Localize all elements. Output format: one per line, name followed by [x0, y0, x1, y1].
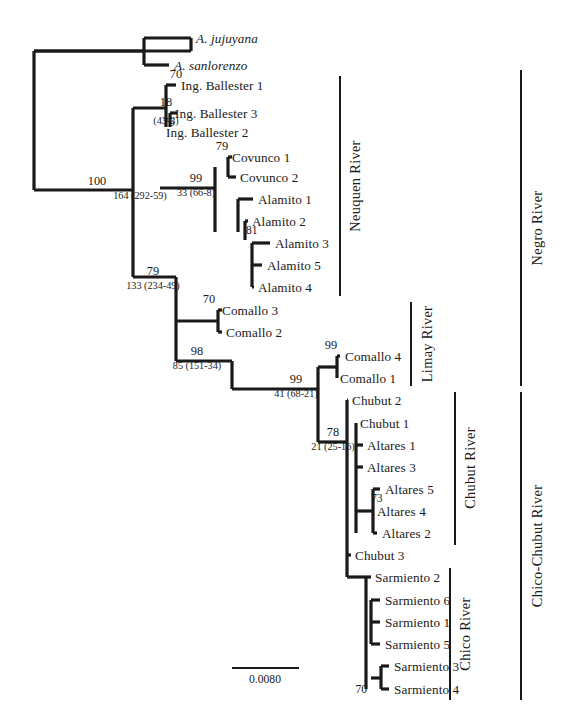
node-support-value: 78 [327, 426, 339, 438]
node-support-value: 70 [170, 68, 182, 80]
taxon-label: A. jujuyana [196, 32, 258, 45]
taxon-label: Comallo 1 [340, 372, 396, 385]
taxon-label: Sarmiento 4 [394, 683, 459, 696]
node-support-value: 79 [216, 140, 228, 152]
branch-divergence-stat: (43-3) [153, 116, 178, 126]
taxon-label: Alamito 3 [275, 237, 329, 250]
taxon-label: Alamito 1 [258, 193, 312, 206]
taxon-label: Chubut 1 [360, 417, 410, 430]
river-label: Negro River [529, 191, 546, 266]
taxon-label: A. sanlorenzo [174, 59, 247, 72]
node-support-value: 98 [191, 345, 203, 357]
taxon-label: Sarmiento 6 [385, 594, 450, 607]
taxon-label: Altares 1 [367, 439, 416, 452]
phylogenetic-tree-figure: Neuquen RiverLimay RiverChubut RiverChic… [0, 0, 568, 723]
taxon-label: Altares 4 [377, 505, 426, 518]
taxon-label: Comallo 3 [222, 304, 278, 317]
branch-divergence-stat: 85 (151-34) [173, 361, 221, 371]
taxon-label: Chubut 2 [352, 394, 402, 407]
node-support-value: 100 [88, 175, 107, 187]
taxon-label: Ing. Ballester 3 [175, 107, 258, 120]
branch-divergence-stat: 164 (292-59) [113, 191, 166, 201]
river-label: Neuquen River [347, 140, 364, 231]
taxon-label: Alamito 4 [258, 281, 312, 294]
branch-divergence-stat: 33 (66-8) [177, 188, 215, 198]
node-support-value: 70 [355, 684, 367, 695]
branch-divergence-stat: 133 (234-49) [126, 281, 179, 291]
node-support-value: 99 [190, 172, 202, 184]
taxon-label: Ing. Ballester 2 [166, 126, 249, 139]
taxon-label: Sarmiento 1 [385, 616, 450, 629]
taxon-label: Chubut 3 [355, 549, 405, 562]
taxon-label: Altares 2 [382, 527, 431, 540]
river-label: Chubut River [462, 427, 479, 509]
node-support-value: 73 [371, 493, 383, 504]
node-support-value: 18 [160, 96, 172, 108]
taxon-label: Sarmiento 5 [385, 638, 450, 651]
node-support-value: 70 [203, 293, 215, 305]
taxon-label: Sarmiento 2 [375, 571, 440, 584]
taxon-label: Covunco 2 [240, 171, 298, 184]
river-label: Limay River [419, 306, 436, 382]
tree-branches [0, 0, 568, 723]
taxon-label: Altares 5 [385, 483, 434, 496]
node-support-value: 99 [325, 339, 337, 351]
river-label: Chico-Chubut River [529, 485, 546, 608]
taxon-label: Alamito 2 [252, 215, 306, 228]
branch-divergence-stat: 41 (68-21) [274, 389, 317, 399]
taxon-label: Altares 3 [367, 461, 416, 474]
taxon-label: Comallo 4 [345, 350, 401, 363]
taxon-label: Comallo 2 [226, 326, 282, 339]
taxon-label: Alamito 5 [267, 259, 321, 272]
node-support-value: 81 [246, 225, 258, 236]
taxon-label: Ing. Ballester 1 [181, 79, 264, 92]
node-support-value: 99 [290, 373, 302, 385]
taxon-label: Sarmiento 3 [394, 660, 459, 673]
node-support-value: 79 [147, 265, 159, 277]
branch-divergence-stat: 21 (25-16) [311, 442, 354, 452]
scale-bar-label: 0.0080 [249, 673, 281, 686]
taxon-label: Covunco 1 [232, 151, 290, 164]
